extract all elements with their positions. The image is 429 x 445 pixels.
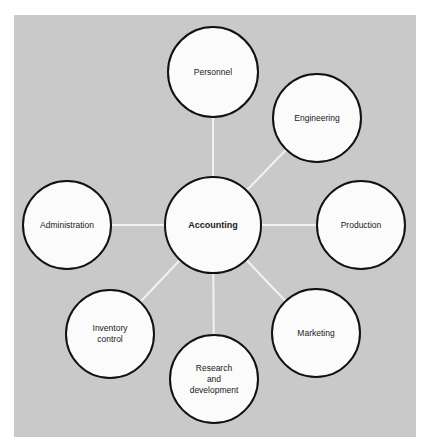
node-label-personnel: Personnel [194,67,232,78]
node-personnel: Personnel [167,26,259,118]
node-label-engineering: Engineering [294,113,339,124]
node-marketing: Marketing [271,288,361,378]
node-inventory-control: Inventory control [65,289,155,379]
node-label-accounting: Accounting [188,220,238,231]
node-research-and-development: Research and development [169,334,259,424]
node-production: Production [316,180,406,270]
node-label-research-and-development: Research and development [190,363,239,396]
node-label-production: Production [341,220,382,231]
node-administration: Administration [22,180,112,270]
node-label-inventory-control: Inventory control [93,323,128,345]
node-engineering: Engineering [272,73,362,163]
node-label-administration: Administration [40,220,94,231]
node-label-marketing: Marketing [297,328,334,339]
node-accounting: Accounting [164,176,262,274]
